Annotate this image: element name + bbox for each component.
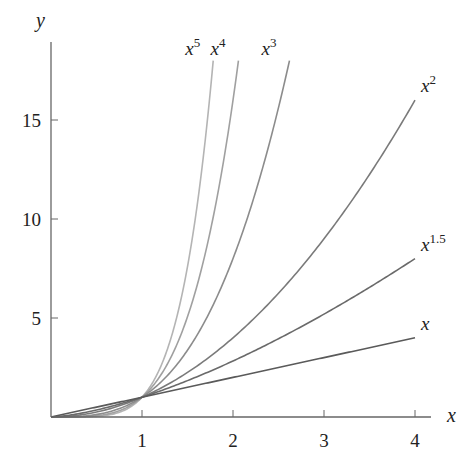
curve-label: x3 [260,35,276,59]
x-tick-label: 3 [319,430,329,451]
y-axis-label: y [34,9,45,32]
x-tick-label: 4 [410,430,420,451]
curve-x [51,338,415,417]
curve-labels: x5x4x3x2x1.5x [184,35,445,334]
x-tick-label: 2 [228,430,238,451]
y-tick-label: 10 [22,209,41,230]
curve-label: x1.5 [420,231,446,255]
y-ticks: 51015 [22,110,58,329]
curve-label: x2 [420,72,436,96]
y-tick-label: 15 [22,110,41,131]
x-tick-label: 1 [137,430,147,451]
curve-x5 [51,61,213,417]
curve-label: x5 [184,35,200,59]
curves-group [51,61,415,417]
curve-label: x4 [209,35,225,59]
y-tick-label: 5 [32,308,42,329]
curve-x3 [51,61,289,417]
curve-label: x [420,313,430,334]
power-functions-chart: 1234 51015 x y x5x4x3x2x1.5x [0,0,468,464]
curve-x4 [51,61,238,417]
axes-group [51,42,431,417]
x-ticks: 1234 [137,410,420,451]
x-axis-label: x [446,404,456,426]
